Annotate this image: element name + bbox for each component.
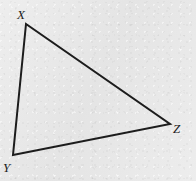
- vertex-label-x: X: [17, 8, 25, 21]
- vertex-label-z: Z: [173, 122, 180, 135]
- triangle-drawing: [0, 0, 196, 181]
- triangle-outline: [13, 24, 170, 155]
- geometry-figure: X Y Z: [0, 0, 196, 181]
- vertex-label-y: Y: [3, 161, 10, 174]
